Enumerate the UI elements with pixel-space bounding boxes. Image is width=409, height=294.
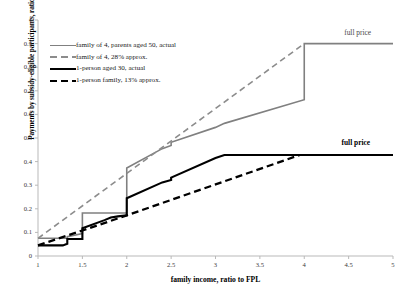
annotation-full-price-lower: full price [342, 138, 371, 147]
legend-label: family of 4, 28% approx. [76, 52, 147, 64]
x-tick-label: 4.5 [337, 261, 361, 268]
legend-swatch-black-dashed-icon [50, 75, 76, 86]
legend-swatch-gray-solid-icon [50, 40, 76, 51]
legend-label: 1-person aged 30, actual [76, 63, 145, 75]
y-tick-label: 0.2 [10, 205, 32, 212]
series-line-3 [38, 155, 300, 245]
x-tick-label: 4 [292, 261, 316, 268]
legend-item-family4-actual: family of 4, parents aged 50, actual [50, 40, 240, 52]
x-tick-label: 2.5 [159, 261, 183, 268]
x-tick-label: 3 [204, 261, 228, 268]
chart-figure: Payments by subsidy-eligible participant… [0, 0, 409, 294]
legend-label: family of 4, parents aged 50, actual [76, 40, 176, 52]
y-tick-label: 0.7 [10, 87, 32, 94]
legend-item-family4-approx: family of 4, 28% approx. [50, 52, 240, 64]
y-tick-label: 0.1 [10, 228, 32, 235]
y-tick-label: 0.9 [10, 40, 32, 47]
x-axis-title: family income, ratio to FPL [38, 275, 393, 284]
y-tick-label: 0.3 [10, 181, 32, 188]
y-tick-label: 0.6 [10, 110, 32, 117]
y-tick-label: 0.4 [10, 158, 32, 165]
y-tick-label: 0.5 [10, 134, 32, 141]
y-tick-label: 1 [10, 16, 32, 23]
legend-item-1person-actual: 1-person aged 30, actual [50, 63, 240, 75]
x-tick-label: 5 [381, 261, 405, 268]
legend-swatch-gray-dashed-icon [50, 52, 76, 63]
y-tick-label: 0 [10, 252, 32, 259]
x-tick-label: 1.5 [70, 261, 94, 268]
x-tick-label: 3.5 [248, 261, 272, 268]
annotation-full-price-upper: full price [344, 28, 371, 37]
legend-swatch-black-solid-icon [50, 63, 76, 74]
y-tick-label: 0.8 [10, 63, 32, 70]
legend-label: 1-person family, 13% approx. [76, 75, 160, 87]
x-tick-label: 2 [115, 261, 139, 268]
x-tick-label: 1 [26, 261, 50, 268]
legend-item-1person-approx: 1-person family, 13% approx. [50, 75, 240, 87]
chart-legend: family of 4, parents aged 50, actual fam… [50, 40, 240, 86]
